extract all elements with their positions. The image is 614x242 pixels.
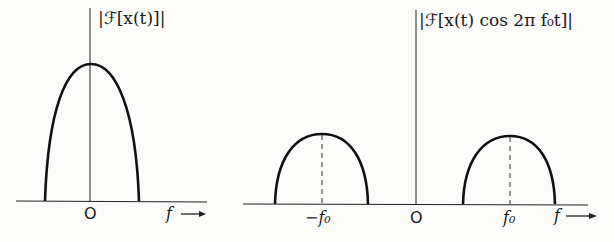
right-f-axis — [243, 204, 588, 205]
left-arrow-icon — [199, 211, 206, 217]
positive-lobe-curve — [463, 136, 555, 204]
right-plot — [243, 10, 597, 219]
neg-f0-tick-label: −f₀ — [305, 210, 331, 226]
left-plot-title: |ℱ[x(t)]| — [98, 8, 165, 28]
pos-f0-tick-label: f₀ — [503, 210, 515, 226]
left-origin-label: O — [84, 206, 97, 222]
right-f-label: f — [554, 208, 560, 224]
right-plot-title: |ℱ[x(t) cos 2π f₀t]| — [419, 10, 573, 30]
left-plot — [16, 8, 207, 217]
left-f-axis — [16, 201, 207, 202]
right-arrow-icon — [589, 213, 597, 219]
left-f-label: f — [166, 206, 172, 222]
right-origin-label: O — [410, 210, 423, 226]
left-spectrum-curve — [45, 64, 139, 201]
